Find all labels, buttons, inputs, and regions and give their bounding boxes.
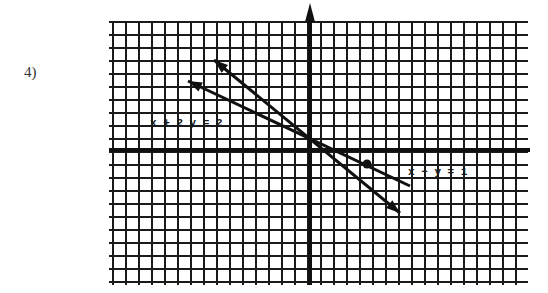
equation-label: x − y = 1 bbox=[408, 166, 468, 178]
coordinate-graph: x + 2 y = 2x − y = 1 bbox=[0, 0, 548, 293]
grid-lines bbox=[109, 22, 528, 285]
plotted-point bbox=[363, 160, 372, 169]
equation-label: x + 2 y = 2 bbox=[150, 117, 223, 129]
y-axis-arrow-icon bbox=[305, 3, 315, 22]
graphed-line-1: x + 2 y = 2 bbox=[150, 81, 410, 186]
